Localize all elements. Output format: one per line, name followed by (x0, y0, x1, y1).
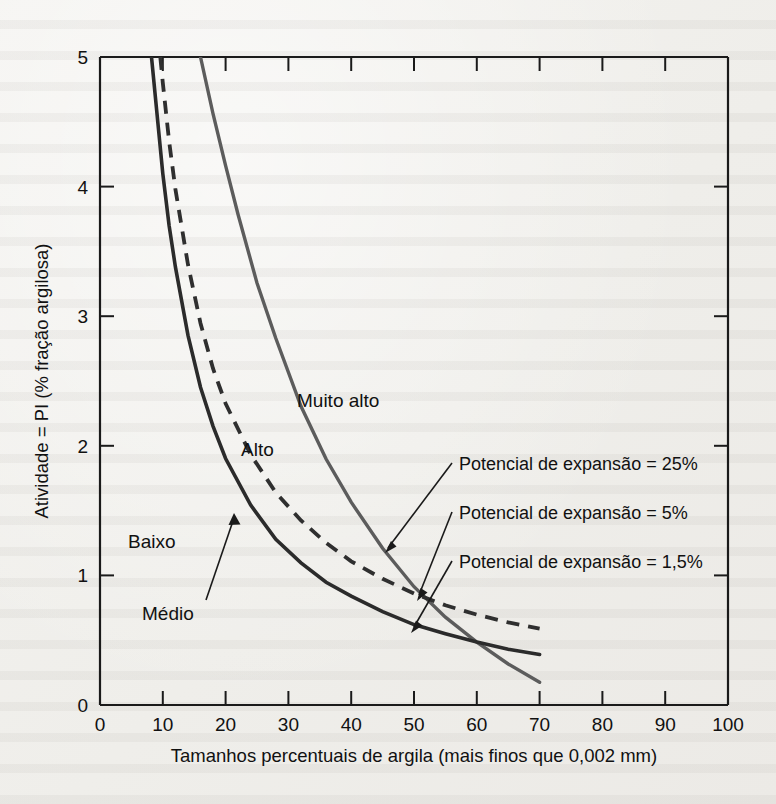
medio-leader-arrow (206, 513, 241, 600)
x-tick-label: 100 (712, 714, 744, 735)
leader-25 (385, 463, 452, 553)
leader-5 (417, 512, 452, 601)
x-axis-ticks (100, 57, 728, 705)
y-axis-title: Atividade = PI (% fração argilosa) (31, 243, 52, 518)
x-tick-label: 30 (278, 714, 299, 735)
annotation-expansion-25: Potencial de expansão = 25% (459, 454, 698, 474)
x-tick-label: 0 (95, 714, 106, 735)
y-tick-label: 4 (77, 177, 88, 198)
x-tick-label: 10 (152, 714, 173, 735)
annotation-expansion-1-5: Potencial de expansão = 1,5% (459, 552, 703, 572)
x-tick-label: 40 (341, 714, 362, 735)
x-tick-label: 50 (403, 714, 424, 735)
curve-expansion-5 (160, 57, 539, 629)
leader-1-5 (411, 561, 452, 633)
x-tick-label: 20 (215, 714, 236, 735)
zone-label-medio: Médio (142, 603, 194, 624)
x-tick-label: 70 (529, 714, 550, 735)
x-axis-title: Tamanhos percentuais de argila (mais fin… (171, 745, 657, 766)
zone-label-muito-alto: Muito alto (297, 390, 379, 411)
y-tick-labels: 0 1 2 3 4 5 (77, 47, 88, 716)
y-tick-label: 2 (77, 436, 88, 457)
annotation-expansion-5: Potencial de expansão = 5% (459, 503, 688, 523)
chart-svg: 0 1 2 3 4 5 0 10 20 30 40 50 60 70 80 90… (0, 0, 776, 804)
x-tick-label: 60 (466, 714, 487, 735)
activity-chart-figure: 0 1 2 3 4 5 0 10 20 30 40 50 60 70 80 90… (0, 0, 776, 804)
x-tick-labels: 0 10 20 30 40 50 60 70 80 90 100 (95, 714, 744, 735)
y-tick-label: 1 (77, 565, 88, 586)
y-tick-label: 5 (77, 47, 88, 68)
plot-frame (100, 57, 728, 705)
zone-label-alto: Alto (241, 439, 274, 460)
y-axis-ticks (100, 57, 728, 705)
zone-label-baixo: Baixo (128, 531, 176, 552)
x-tick-label: 80 (592, 714, 613, 735)
y-tick-label: 3 (77, 306, 88, 327)
curve-expansion-25 (201, 57, 540, 682)
y-tick-label: 0 (77, 695, 88, 716)
x-tick-label: 90 (655, 714, 676, 735)
